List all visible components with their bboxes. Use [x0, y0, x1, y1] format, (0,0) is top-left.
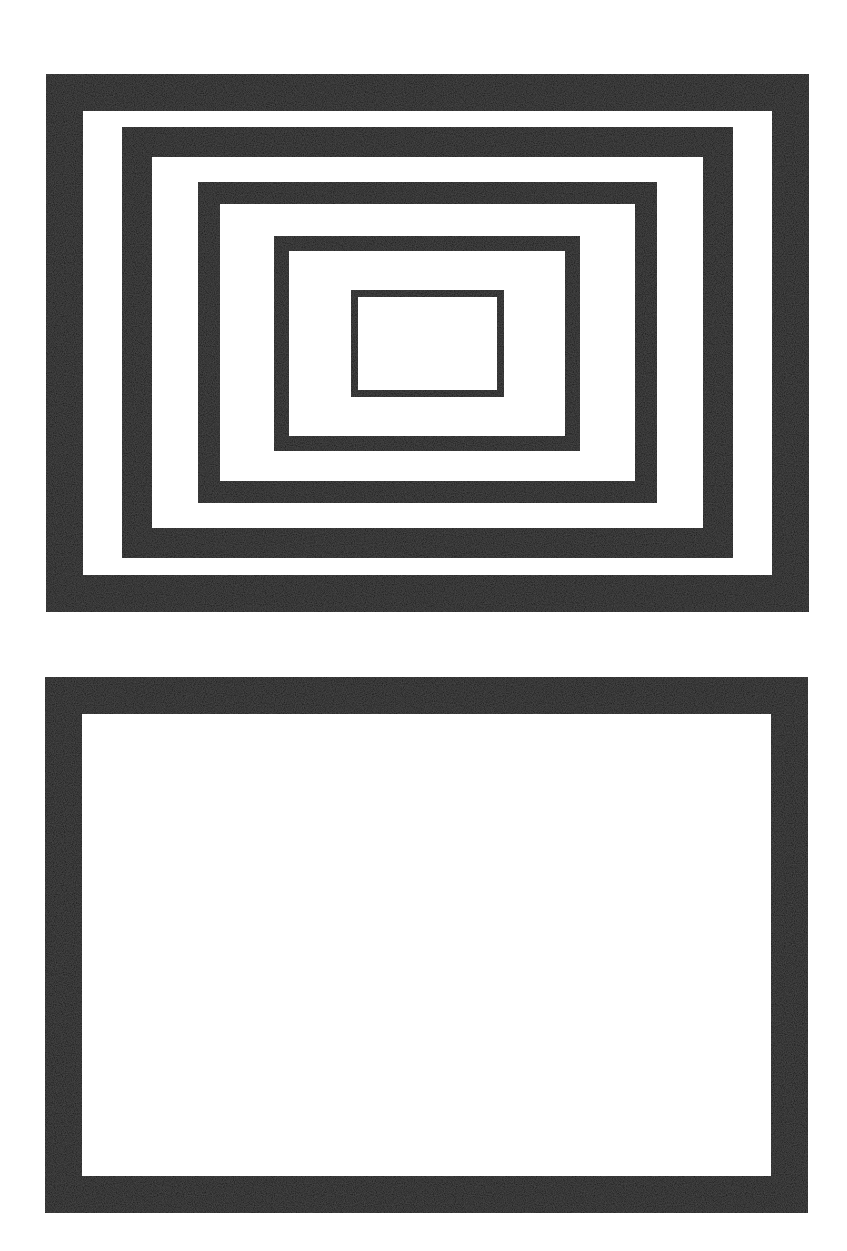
nested-frame-5 [351, 290, 504, 397]
single-frame-panel [45, 677, 808, 1213]
nested-frames-panel [46, 74, 809, 612]
nested-frame-4 [274, 236, 580, 451]
figure-canvas [0, 0, 847, 1251]
single-frame-1 [45, 677, 808, 1213]
nested-frame-3 [198, 182, 657, 503]
